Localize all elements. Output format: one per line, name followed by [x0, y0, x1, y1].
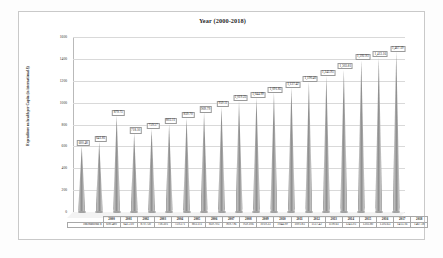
data-label: 1,392.93 — [355, 54, 370, 60]
table-cell-value: 1137.42 — [308, 222, 325, 228]
table-row-values: International $600.480641.310879.750718.… — [68, 222, 428, 228]
y-axis-tick: 1000 — [21, 103, 67, 107]
data-label: 1,091.85 — [268, 87, 283, 93]
bar-cone-body — [96, 142, 103, 212]
table-series-label: International $ — [68, 222, 104, 228]
page-title: Year (2000-2018) — [19, 17, 426, 24]
chart-frame: Year (2000-2018) Expenditure on health p… — [18, 11, 425, 240]
bar-cone — [113, 116, 120, 212]
y-axis-tick: 800 — [21, 125, 67, 129]
data-label: 909.79 — [199, 106, 211, 112]
y-axis-tick: 400 — [21, 168, 67, 172]
table-cell-value: 909.796 — [223, 222, 240, 228]
bar-cone-body — [236, 101, 243, 212]
data-label: 859.70 — [182, 112, 194, 118]
bar-cone — [166, 124, 173, 212]
data-label: 1,190.40 — [303, 76, 318, 82]
bar-cone — [131, 133, 138, 212]
bar-cone-body — [323, 76, 330, 212]
table-cell-value: 1245.93 — [342, 222, 359, 228]
bar-cone-body — [393, 52, 400, 212]
data-label: 1,044.99 — [251, 92, 266, 98]
table-cell-value: 1467.18 — [411, 222, 428, 228]
bar-cone — [305, 82, 312, 212]
table-cell-value: 718.501 — [154, 222, 171, 228]
table-cell-value: 1019.23 — [257, 222, 274, 228]
gridline — [73, 81, 405, 82]
data-label: 1,467.19 — [390, 46, 405, 52]
y-axis-tick: 1400 — [21, 59, 67, 63]
table-cell-value: 1303.80 — [359, 222, 376, 228]
bar-cone — [323, 76, 330, 212]
bar-cone-body — [253, 98, 260, 212]
y-axis-tick: 1200 — [21, 81, 67, 85]
table-cell-value: 600.480 — [103, 222, 120, 228]
bar-cone — [201, 113, 208, 213]
data-label: 1,137.42 — [285, 82, 300, 88]
table-cell-value: 1091.85 — [291, 222, 308, 228]
bar-cone — [253, 98, 260, 212]
data-label: 879.75 — [112, 110, 124, 116]
bar-cone — [148, 129, 155, 212]
bar-cone — [270, 93, 277, 212]
bar-cone-body — [340, 69, 347, 212]
bar-cone-body — [218, 107, 225, 212]
bar-cone — [236, 101, 243, 212]
data-label: 718.10 — [129, 127, 141, 133]
bar-cone-body — [131, 133, 138, 212]
bar-cone-body — [375, 57, 382, 212]
data-label: 803.11 — [164, 118, 176, 124]
data-label: 1,413.16 — [373, 51, 388, 57]
table-cell-value: 1413.16 — [394, 222, 411, 228]
scanned-page: Year (2000-2018) Expenditure on health p… — [0, 0, 443, 258]
table-cell-value: 641.310 — [120, 222, 137, 228]
y-axis-tick: 200 — [21, 190, 67, 194]
bar-cone — [375, 57, 382, 212]
bar-cone-body — [358, 60, 365, 212]
bar-cone — [358, 60, 365, 212]
table-cell-value: 759.571 — [171, 222, 188, 228]
bar-cone — [183, 118, 190, 212]
data-label: 641.81 — [94, 136, 106, 142]
bar-cone-body — [270, 93, 277, 212]
bar-cone-body — [78, 146, 85, 212]
bar-cone — [393, 52, 400, 212]
bar-cone-body — [148, 129, 155, 212]
bar-cone — [96, 142, 103, 212]
bar-cone-body — [183, 118, 190, 212]
bar-cone — [288, 88, 295, 212]
table-cell-value: 1044.99 — [274, 222, 291, 228]
gridline — [73, 37, 405, 38]
data-label: 1,303.81 — [338, 63, 353, 69]
table-cell-value: 959.106 — [240, 222, 257, 228]
table-cell-value: 1190.61 — [325, 222, 342, 228]
table-cell-value: 803.111 — [188, 222, 205, 228]
bar-cone-body — [166, 124, 173, 212]
data-table: 2000200120022003200420052006200720082009… — [67, 216, 407, 228]
table-cell-value: 879.750 — [137, 222, 154, 228]
plot-area: 16001400120010008006004002000 600.48641.… — [67, 32, 405, 218]
bar-cone — [340, 69, 347, 212]
data-label: 759.57 — [147, 123, 159, 129]
data-label: 959.11 — [217, 101, 229, 107]
y-axis-tick: 1600 — [21, 37, 67, 41]
data-label: 1,245.95 — [320, 70, 335, 76]
table-cell-value: 859.705 — [206, 222, 223, 228]
y-axis-tick: 0 — [21, 212, 67, 216]
bar-cone-body — [305, 82, 312, 212]
data-label: 600.48 — [77, 140, 89, 146]
bar-cone-body — [201, 113, 208, 213]
bar-cone — [78, 146, 85, 212]
table-cell-value: 1392.63 — [377, 222, 394, 228]
bar-cone-body — [288, 88, 295, 212]
bar-cone-body — [113, 116, 120, 212]
y-axis-tick: 600 — [21, 146, 67, 150]
data-label: 1,019.23 — [233, 95, 248, 101]
bar-cone — [218, 107, 225, 212]
